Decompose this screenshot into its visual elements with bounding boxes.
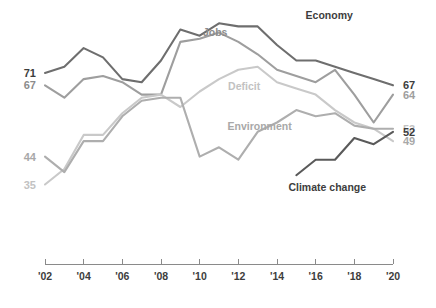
start-value-label: 35 bbox=[24, 179, 36, 191]
series-label-environment: Environment bbox=[228, 120, 293, 132]
start-value-label: 67 bbox=[24, 79, 36, 91]
series-line-jobs bbox=[45, 33, 393, 123]
start-value-label: 44 bbox=[24, 151, 37, 163]
series-line-climate-change bbox=[296, 132, 393, 175]
end-value-label: 64 bbox=[403, 89, 416, 101]
series-label-deficit: Deficit bbox=[228, 80, 261, 92]
x-axis-tick-label: '04 bbox=[77, 270, 91, 282]
series-label-economy: Economy bbox=[306, 9, 353, 21]
x-axis-tick-label: '10 bbox=[193, 270, 207, 282]
x-axis-tick-label: '08 bbox=[154, 270, 168, 282]
x-axis-tick-label: '16 bbox=[309, 270, 323, 282]
series-line-deficit bbox=[45, 67, 393, 185]
x-axis-tick-label: '02 bbox=[38, 270, 52, 282]
series-label-jobs: Jobs bbox=[203, 26, 228, 38]
x-axis-tick-label: '06 bbox=[115, 270, 129, 282]
series-layer bbox=[45, 23, 393, 184]
series-annotations: EconomyJobsDeficitEnvironmentClimate cha… bbox=[203, 9, 366, 193]
chart-canvas: '02'04'06'08'10'12'14'16'18'20 EconomyJo… bbox=[0, 0, 436, 308]
x-axis-tick-label: '14 bbox=[270, 270, 284, 282]
x-axis-tick-label: '20 bbox=[386, 270, 400, 282]
end-value-label: 49 bbox=[403, 135, 415, 147]
line-chart: '02'04'06'08'10'12'14'16'18'20 EconomyJo… bbox=[0, 0, 436, 308]
value-labels: 716744356764535249 bbox=[24, 67, 416, 191]
x-axis-tick-label: '12 bbox=[231, 270, 245, 282]
start-value-label: 71 bbox=[24, 67, 36, 79]
series-label-climate-change: Climate change bbox=[288, 181, 366, 193]
x-axis: '02'04'06'08'10'12'14'16'18'20 bbox=[38, 259, 400, 282]
x-axis-tick-label: '18 bbox=[347, 270, 361, 282]
